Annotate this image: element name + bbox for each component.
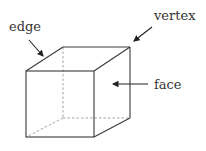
vertex-arrow [134, 27, 152, 41]
visible-edges [26, 47, 130, 137]
edge-label: edge [9, 20, 41, 33]
edge-arrow [29, 40, 43, 56]
vertex-label: vertex [154, 9, 196, 22]
face-label: face [154, 78, 182, 91]
